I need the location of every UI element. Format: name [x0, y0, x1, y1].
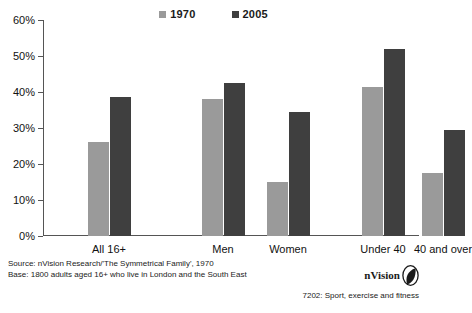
- bar-1970-women: [267, 182, 288, 236]
- y-axis-tick-label: 10%: [13, 194, 35, 206]
- chart-legend: 1970 2005: [0, 9, 427, 20]
- legend-swatch-1970: [159, 11, 166, 18]
- source-line-1: Source: nVision Research/'The Symmetrica…: [8, 258, 247, 269]
- bar-2005-women: [289, 112, 310, 236]
- bar-2005-all-16+: [110, 97, 131, 236]
- bar-series-group: [43, 20, 419, 236]
- source-note: Source: nVision Research/'The Symmetrica…: [8, 258, 247, 280]
- y-axis-tick-label: 60%: [13, 14, 35, 26]
- y-axis-tick-label: 0%: [19, 230, 35, 242]
- legend-item-1970: 1970: [159, 9, 195, 20]
- x-axis-label: 40 and over: [414, 243, 472, 255]
- report-code: 7202: Sport, exercise and fitness: [302, 291, 419, 300]
- source-line-2: Base: 1800 adults aged 16+ who live in L…: [8, 269, 247, 280]
- plot-area: 0%10%20%30%40%50%60% All 16+MenWomenUnde…: [43, 20, 419, 236]
- bar-1970-under-40: [362, 87, 383, 236]
- legend-label-2005: 2005: [243, 9, 268, 20]
- bar-2005-men: [224, 83, 245, 236]
- x-axis-label: Men: [212, 243, 233, 255]
- y-axis-tick-label: 50%: [13, 50, 35, 62]
- bar-1970-40-and-over: [422, 173, 443, 236]
- y-axis-tick-label: 20%: [13, 158, 35, 170]
- brand-name: nVision: [364, 270, 400, 281]
- legend-swatch-2005: [232, 11, 239, 18]
- y-axis-tick-label: 40%: [13, 86, 35, 98]
- x-axis-label: Women: [269, 243, 307, 255]
- legend-item-2005: 2005: [232, 9, 268, 20]
- y-axis-tick-label: 30%: [13, 122, 35, 134]
- legend-label-1970: 1970: [170, 9, 195, 20]
- bar-1970-men: [202, 99, 223, 236]
- bar-2005-40-and-over: [444, 130, 465, 236]
- x-axis-label: Under 40: [360, 243, 405, 255]
- bar-1970-all-16+: [88, 142, 109, 236]
- brand-logo: nVision: [364, 265, 419, 286]
- nvision-leaf-icon: [402, 265, 419, 286]
- bar-2005-under-40: [384, 49, 405, 236]
- y-axis-tick: [38, 236, 43, 237]
- x-axis-label: All 16+: [92, 243, 126, 255]
